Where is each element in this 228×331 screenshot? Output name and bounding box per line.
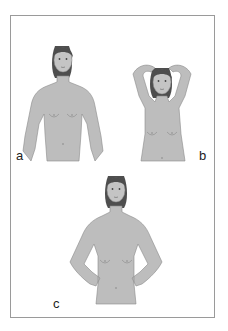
- panel-b: b: [111, 16, 216, 161]
- panel-c: c: [56, 166, 176, 316]
- panel-label-c: c: [53, 297, 60, 310]
- figure-a-illustration: [11, 16, 111, 161]
- panel-label-b: b: [199, 149, 206, 162]
- figure-c-illustration: [56, 166, 176, 316]
- figure-frame: a b: [10, 15, 215, 318]
- figure-b-illustration: [111, 16, 216, 161]
- panel-label-a: a: [16, 149, 23, 162]
- panel-a: a: [11, 16, 111, 161]
